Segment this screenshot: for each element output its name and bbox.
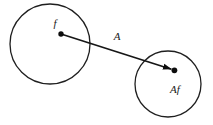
source-point-dot	[58, 31, 63, 36]
target-point-label: Af	[169, 83, 182, 95]
operator-label: A	[113, 30, 121, 42]
diagram-svg: f A Af	[0, 0, 213, 125]
source-point-label: f	[53, 17, 58, 29]
diagram-canvas: f A Af	[0, 0, 213, 125]
source-neighborhood-circle	[10, 4, 90, 84]
target-point-dot	[172, 67, 178, 73]
